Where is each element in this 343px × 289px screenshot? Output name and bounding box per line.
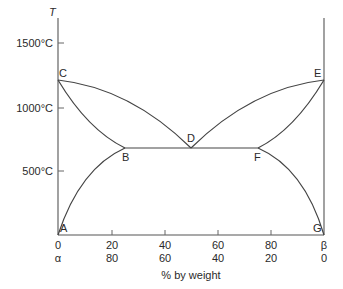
- x-tick-bottom-80: 80: [106, 252, 118, 264]
- point-label-c: C: [59, 67, 67, 79]
- y-tick-label-500: 500°C: [22, 165, 53, 177]
- x-tick-top-80: 80: [265, 239, 277, 251]
- x-tick-bottom-60: 60: [159, 252, 171, 264]
- y-tick-label-1500: 1500°C: [16, 37, 53, 49]
- point-label-b: B: [122, 151, 129, 163]
- solidus-curve-cb: [58, 80, 125, 148]
- y-tick-label-1000: 1000°C: [16, 102, 53, 114]
- x-tick-top-0: 0: [55, 239, 61, 251]
- x-axis-label: % by weight: [161, 269, 220, 281]
- x-tick-top-20: 20: [106, 239, 118, 251]
- point-label-g: G: [313, 222, 322, 234]
- x-tick-bottom-0: 0: [321, 252, 327, 264]
- x-tick-top-60: 60: [212, 239, 224, 251]
- point-label-e: E: [314, 67, 321, 79]
- x-tick-top-40: 40: [159, 239, 171, 251]
- liquidus-curve-de: [191, 80, 324, 148]
- solidus-curve-ef: [258, 80, 324, 148]
- x-tick-bottom-20: 20: [265, 252, 277, 264]
- x-tick-bottom-40: 40: [212, 252, 224, 264]
- x-tick-bottom-alpha: α: [55, 252, 62, 264]
- point-label-d: D: [187, 132, 195, 144]
- phase-diagram: T 1500°C 1000°C 500°C 0 20 40 60 80 β α …: [0, 0, 343, 289]
- x-tick-top-beta: β: [321, 239, 327, 251]
- solvus-curve-ab: [58, 148, 125, 235]
- point-label-a: A: [60, 222, 68, 234]
- point-label-f: F: [254, 151, 261, 163]
- liquidus-curve-cd: [58, 80, 191, 148]
- y-axis-label: T: [49, 6, 57, 18]
